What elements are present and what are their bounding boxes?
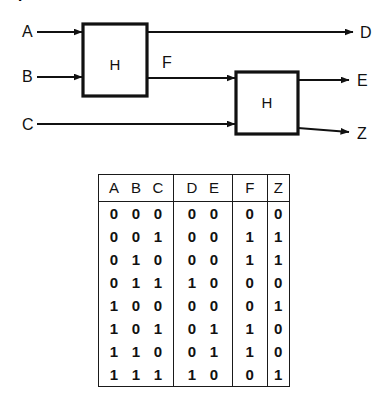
output-label-z: Z: [357, 125, 367, 142]
wire-h2-to-z: [298, 128, 349, 132]
cell-c: 1: [147, 271, 169, 294]
table-row: 1010110: [99, 317, 290, 340]
cell-e: 1: [203, 340, 225, 363]
header-cell-b: B: [125, 175, 147, 201]
cell-f: 0: [233, 271, 268, 294]
output-label-d: D: [360, 24, 372, 41]
block-h1-label: H: [110, 56, 121, 73]
cell-z: 1: [267, 248, 289, 271]
block-diagram: H H A B C D F E Z: [0, 0, 386, 160]
cell-c: 0: [147, 294, 169, 317]
truth-table: A B C D E F Z 0000000001001101: [98, 174, 290, 387]
cell-z: 0: [267, 340, 289, 363]
table-row: 1000001: [99, 294, 290, 317]
signal-label-f: F: [162, 54, 172, 71]
cell-a: 1: [103, 340, 125, 363]
output-label-e: E: [357, 72, 368, 89]
header-cell-c: C: [147, 175, 169, 201]
cell-group-de: 01: [174, 317, 233, 340]
cell-d: 0: [181, 225, 203, 248]
cell-d: 0: [181, 294, 203, 317]
cell-group-abc: 110: [99, 340, 174, 363]
cell-e: 0: [203, 294, 225, 317]
cell-group-abc: 010: [99, 248, 174, 271]
cell-a: 1: [103, 294, 125, 317]
cell-group-de: 01: [174, 340, 233, 363]
cell-group-abc: 011: [99, 271, 174, 294]
cell-d: 0: [181, 340, 203, 363]
cell-b: 0: [125, 202, 147, 225]
table-row: 1100110: [99, 340, 290, 363]
cell-a: 1: [103, 363, 125, 386]
cell-a: 0: [103, 271, 125, 294]
cell-d: 0: [181, 202, 203, 225]
cell-a: 0: [103, 248, 125, 271]
input-label-c: C: [22, 116, 34, 133]
table-row: 0000000: [99, 202, 290, 226]
cell-group-abc: 000: [99, 202, 174, 226]
cell-a: 1: [103, 317, 125, 340]
cell-group-abc: 001: [99, 225, 174, 248]
cell-c: 1: [147, 225, 169, 248]
input-label-b: B: [22, 68, 33, 85]
cell-z: 1: [267, 363, 289, 387]
cell-f: 1: [233, 225, 268, 248]
cell-group-abc: 100: [99, 294, 174, 317]
figure-root: P H H A B C D: [0, 0, 386, 408]
block-h2-label: H: [262, 94, 273, 111]
cell-group-de: 00: [174, 225, 233, 248]
cell-d: 0: [181, 248, 203, 271]
cell-d: 1: [181, 363, 203, 386]
cell-b: 0: [125, 225, 147, 248]
cell-group-de: 10: [174, 271, 233, 294]
cell-group-abc: 111: [99, 363, 174, 387]
cell-z: 0: [267, 317, 289, 340]
cell-group-de: 00: [174, 202, 233, 226]
table-row: 0111000: [99, 271, 290, 294]
truth-table-header-row: A B C D E F Z: [99, 175, 290, 202]
cell-e: 0: [203, 363, 225, 386]
cell-z: 1: [267, 225, 289, 248]
cell-b: 1: [125, 363, 147, 386]
header-group-abc: A B C: [99, 175, 174, 202]
cell-group-de: 00: [174, 248, 233, 271]
cell-f: 1: [233, 340, 268, 363]
truth-table-container: A B C D E F Z 0000000001001101: [98, 174, 290, 387]
cell-c: 0: [147, 340, 169, 363]
cell-c: 0: [147, 202, 169, 225]
cell-a: 0: [103, 225, 125, 248]
header-cell-f: F: [233, 175, 268, 202]
cell-d: 1: [181, 271, 203, 294]
cell-e: 0: [203, 248, 225, 271]
cell-f: 0: [233, 363, 268, 387]
cell-c: 0: [147, 248, 169, 271]
cell-f: 1: [233, 248, 268, 271]
cell-group-abc: 101: [99, 317, 174, 340]
header-cell-a: A: [103, 175, 125, 201]
header-group-de: D E: [174, 175, 233, 202]
cell-e: 0: [203, 225, 225, 248]
cell-b: 1: [125, 340, 147, 363]
cell-group-de: 10: [174, 363, 233, 387]
block-diagram-svg: H H A B C D F E Z: [0, 0, 386, 160]
cell-d: 0: [181, 317, 203, 340]
header-cell-z: Z: [267, 175, 289, 202]
cell-z: 0: [267, 271, 289, 294]
cell-f: 1: [233, 317, 268, 340]
cell-a: 0: [103, 202, 125, 225]
cell-z: 1: [267, 294, 289, 317]
cell-z: 0: [267, 202, 289, 226]
table-row: 0100011: [99, 248, 290, 271]
cell-e: 0: [203, 202, 225, 225]
cell-c: 1: [147, 317, 169, 340]
cell-b: 1: [125, 271, 147, 294]
input-label-a: A: [22, 23, 33, 40]
cell-group-de: 00: [174, 294, 233, 317]
cell-b: 1: [125, 248, 147, 271]
header-cell-e: E: [203, 175, 225, 201]
cell-e: 0: [203, 271, 225, 294]
truth-table-head: A B C D E F Z: [99, 175, 290, 202]
truth-table-body: 0000000001001101000110111000100000110101…: [99, 202, 290, 387]
cell-b: 0: [125, 317, 147, 340]
cell-f: 0: [233, 202, 268, 226]
